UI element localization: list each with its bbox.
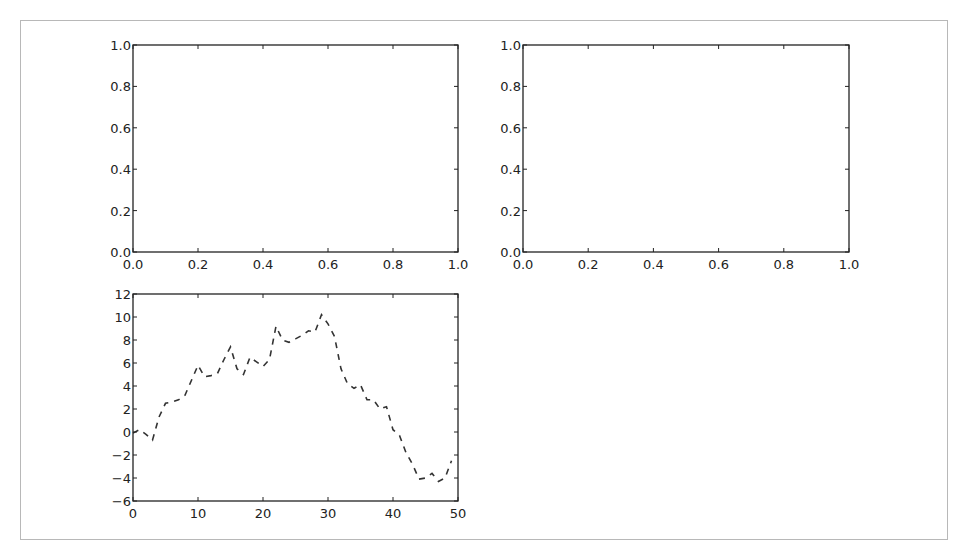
y-tick-label: −6 xyxy=(112,494,131,509)
subplot-top-left: 0.00.20.40.60.81.00.00.20.40.60.81.0 xyxy=(110,38,468,272)
data-series-line xyxy=(133,315,452,482)
y-tick-label: 0.2 xyxy=(500,204,521,219)
y-tick-label: 0.4 xyxy=(110,162,131,177)
y-tick-label: 8 xyxy=(123,333,131,348)
y-tick-label: 0.8 xyxy=(500,79,521,94)
x-tick-label: 20 xyxy=(255,506,272,521)
y-tick-label: 4 xyxy=(123,379,131,394)
x-tick-label: 1.0 xyxy=(839,257,860,272)
y-tick-label: 0 xyxy=(123,425,131,440)
y-tick-label: 0.4 xyxy=(500,162,521,177)
x-tick-label: 0.6 xyxy=(318,257,339,272)
y-tick-label: 0.0 xyxy=(500,245,521,260)
y-tick-label: −2 xyxy=(112,448,131,463)
y-tick-label: 1.0 xyxy=(500,38,521,53)
x-tick-label: 30 xyxy=(320,506,337,521)
y-tick-label: 10 xyxy=(114,310,131,325)
x-tick-label: 0.8 xyxy=(773,257,794,272)
x-tick-label: 0.2 xyxy=(578,257,599,272)
x-tick-label: 50 xyxy=(450,506,467,521)
x-tick-label: 0.4 xyxy=(253,257,274,272)
x-tick-label: 0.8 xyxy=(383,257,404,272)
x-tick-label: 10 xyxy=(190,506,207,521)
y-tick-label: 0.2 xyxy=(110,204,131,219)
figure-canvas: 0.00.20.40.60.81.00.00.20.40.60.81.0 0.0… xyxy=(0,0,959,556)
y-tick-label: 1.0 xyxy=(110,38,131,53)
y-tick-label: 2 xyxy=(123,402,131,417)
subplot-top-right: 0.00.20.40.60.81.00.00.20.40.60.81.0 xyxy=(500,38,859,272)
y-tick-label: −4 xyxy=(112,471,131,486)
y-tick-label: 0.0 xyxy=(110,245,131,260)
x-tick-label: 40 xyxy=(385,506,402,521)
y-tick-label: 0.6 xyxy=(110,121,131,136)
x-tick-label: 0.6 xyxy=(708,257,729,272)
x-tick-label: 0.4 xyxy=(643,257,664,272)
y-tick-label: 12 xyxy=(114,287,131,302)
y-tick-label: 6 xyxy=(123,356,131,371)
axes-frame xyxy=(133,45,458,252)
x-tick-label: 1.0 xyxy=(448,257,469,272)
y-tick-label: 0.8 xyxy=(110,79,131,94)
axes-frame xyxy=(523,45,849,252)
subplot-bottom-left: 01020304050−6−4−2024681012 xyxy=(112,287,466,521)
x-tick-label: 0.2 xyxy=(188,257,209,272)
y-tick-label: 0.6 xyxy=(500,121,521,136)
axes-frame xyxy=(133,294,458,501)
